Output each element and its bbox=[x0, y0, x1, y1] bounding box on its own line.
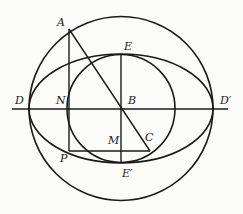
point-label-N: N bbox=[55, 94, 66, 107]
point-label-D2: D′ bbox=[219, 94, 232, 107]
point-label-E: E bbox=[123, 40, 132, 53]
segment-AC bbox=[69, 29, 150, 151]
ellipse-construction-figure: AEDNBD′CMPE′ bbox=[0, 0, 243, 214]
point-label-E2: E′ bbox=[121, 167, 133, 180]
point-label-A: A bbox=[56, 16, 65, 29]
point-label-D: D bbox=[14, 94, 24, 107]
point-label-P: P bbox=[59, 152, 68, 165]
diagram-canvas: AEDNBD′CMPE′ bbox=[0, 0, 243, 214]
point-label-M: M bbox=[107, 134, 120, 147]
point-label-B: B bbox=[127, 94, 136, 107]
point-label-C: C bbox=[145, 131, 154, 144]
